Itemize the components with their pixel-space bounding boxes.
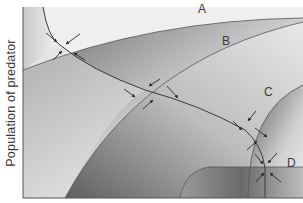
curve-label-a: A xyxy=(198,2,206,16)
y-axis-label: Population of predator xyxy=(4,38,18,168)
curve-label-c: C xyxy=(264,85,273,99)
curve-label-d: D xyxy=(287,156,296,170)
curve-label-b: B xyxy=(222,34,230,48)
region-under-curve-d xyxy=(180,167,303,198)
diagram-canvas: A B C D xyxy=(0,0,303,203)
